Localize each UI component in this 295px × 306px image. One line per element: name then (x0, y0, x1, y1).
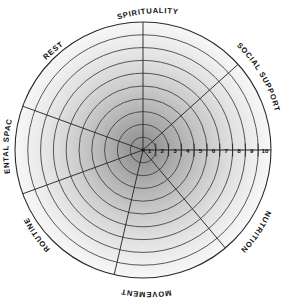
scale-number-2: 2 (160, 147, 164, 154)
label-movement: MOVEMENT (120, 287, 172, 299)
life-wheel-chart: 1 2 3 4 5 6 7 8 9 10 SPIRITUALITY SOCIAL… (0, 0, 295, 306)
radar-chart-svg: 1 2 3 4 5 6 7 8 9 10 SPIRITUALITY SOCIAL… (0, 0, 295, 306)
label-spirituality: SPIRITUALITY (116, 6, 179, 21)
scale-number-7: 7 (224, 147, 228, 154)
scale-number-4: 4 (186, 147, 190, 154)
center-hub (141, 148, 145, 152)
label-mental-space: MENTAL SPACE (0, 0, 14, 175)
scale-number-1: 1 (148, 147, 152, 154)
scale-number-3: 3 (173, 147, 177, 154)
scale-number-10: 10 (261, 147, 269, 154)
scale-number-9: 9 (250, 147, 254, 154)
scale-number-5: 5 (199, 147, 203, 154)
scale-number-6: 6 (212, 147, 216, 154)
scale-number-8: 8 (237, 147, 241, 154)
